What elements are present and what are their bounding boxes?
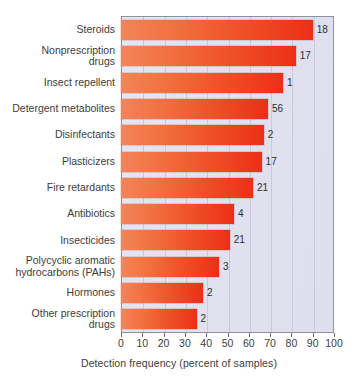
bar-row: 17 (121, 152, 334, 172)
category-label: Hormones (0, 287, 115, 299)
category-label: Disinfectants (0, 129, 115, 141)
x-tick-label: 50 (222, 337, 234, 350)
category-label: Polycyclic aromatic hydrocarbons (PAHs) (0, 255, 115, 278)
x-tick-label: 20 (158, 337, 170, 350)
bar[interactable] (121, 99, 268, 119)
x-tick-label: 30 (179, 337, 191, 350)
bar[interactable] (121, 73, 283, 93)
bar-row: 21 (121, 230, 334, 250)
bar-row: 21 (121, 178, 334, 198)
bar-value-label: 2 (201, 311, 207, 327)
category-label: Insect repellent (0, 77, 115, 89)
x-axis: 0102030405060708090100 (121, 333, 334, 353)
bar-row: 2 (121, 309, 334, 329)
x-tick-label: 10 (136, 337, 148, 350)
x-tick-label: 70 (264, 337, 276, 350)
bar-row: 17 (121, 46, 334, 66)
category-label: Detergent metabolites (0, 103, 115, 115)
bar-value-label: 21 (234, 232, 245, 248)
bar-value-label: 2 (268, 127, 274, 143)
bar-value-label: 1 (287, 75, 293, 91)
bar-value-label: 18 (317, 22, 328, 38)
category-label: Insecticides (0, 235, 115, 247)
category-axis-labels: SteroidsNonprescription drugsInsect repe… (0, 16, 115, 333)
bar-row: 2 (121, 125, 334, 145)
bar-value-label: 3 (223, 259, 229, 275)
bar[interactable] (121, 309, 197, 329)
bar[interactable] (121, 46, 296, 66)
bar-series: 181715621721421322 (121, 16, 334, 333)
bar-value-label: 2 (207, 285, 213, 301)
bar-row: 2 (121, 283, 334, 303)
bar[interactable] (121, 257, 219, 277)
bar-chart: SteroidsNonprescription drugsInsect repe… (0, 0, 358, 380)
x-tick-label: 0 (118, 337, 124, 350)
category-label: Nonprescription drugs (0, 45, 115, 68)
x-tick-label: 100 (325, 337, 343, 350)
category-label: Steroids (0, 24, 115, 36)
bar-value-label: 17 (300, 48, 311, 64)
bar[interactable] (121, 20, 313, 40)
category-label: Fire retardants (0, 182, 115, 194)
bar[interactable] (121, 178, 253, 198)
x-tick-label: 40 (200, 337, 212, 350)
bar[interactable] (121, 125, 264, 145)
category-label: Plasticizers (0, 156, 115, 168)
bar-value-label: 17 (266, 154, 277, 170)
bar[interactable] (121, 152, 262, 172)
bar-row: 56 (121, 99, 334, 119)
x-tick-label: 80 (286, 337, 298, 350)
bar-row: 4 (121, 204, 334, 224)
x-tick-label: 90 (307, 337, 319, 350)
category-label: Other prescription drugs (0, 308, 115, 331)
bar-row: 18 (121, 20, 334, 40)
bar-row: 3 (121, 257, 334, 277)
x-tick-label: 60 (243, 337, 255, 350)
bar-value-label: 56 (272, 101, 283, 117)
bar-value-label: 4 (238, 206, 244, 222)
x-axis-title: Detection frequency (percent of samples) (0, 357, 358, 369)
bar[interactable] (121, 204, 234, 224)
bar[interactable] (121, 283, 203, 303)
category-label: Antibiotics (0, 208, 115, 220)
bar-value-label: 21 (257, 180, 268, 196)
bar[interactable] (121, 230, 230, 250)
bar-row: 1 (121, 73, 334, 93)
